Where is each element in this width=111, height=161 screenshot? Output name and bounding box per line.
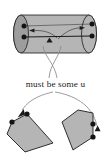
cylinder-marker-dot (22, 24, 27, 29)
right-polygon-marker-dot (90, 134, 95, 139)
right-polygon-shape (62, 110, 93, 150)
right-polygon (62, 110, 96, 150)
cylinder (14, 15, 97, 53)
left-polygon-marker-dot (24, 111, 29, 116)
cylinder-marker-dot (90, 34, 95, 39)
left-polygon (7, 111, 53, 152)
cylinder-left-cap (14, 15, 29, 53)
left-polygon-shape (7, 114, 53, 152)
connector-to-left-polygon (22, 92, 53, 110)
right-polygon-arrow-icon (95, 126, 101, 132)
right-polygon-marker-dot (90, 121, 95, 126)
left-polygon-marker-dot (9, 119, 14, 124)
cylinder-marker-dot (22, 35, 27, 40)
figure-caption: must be some u (0, 79, 111, 90)
cylinder-marker-dot (90, 22, 95, 27)
cylinder-right-cap (82, 15, 97, 53)
